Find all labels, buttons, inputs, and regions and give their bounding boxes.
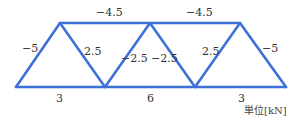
label-ae: −5 <box>22 42 38 55</box>
label-cg: 2.5 <box>202 45 220 58</box>
label-ef: −4.5 <box>96 6 123 19</box>
truss-diagram: −5 2.5 −2.5 −2.5 2.5 −5 −4.5 −4.5 3 6 3 … <box>0 0 298 122</box>
label-eb: 2.5 <box>84 45 102 58</box>
label-bf: −2.5 <box>121 52 148 65</box>
label-fc: −2.5 <box>151 52 178 65</box>
label-bc: 6 <box>147 92 154 105</box>
label-fg: −4.5 <box>186 6 213 19</box>
label-cd: 3 <box>238 92 245 105</box>
member-gd <box>240 23 286 87</box>
label-ab: 3 <box>56 92 63 105</box>
label-gd: −5 <box>262 42 278 55</box>
unit-label: 単位[kN] <box>244 104 287 116</box>
member-ae <box>16 23 60 87</box>
